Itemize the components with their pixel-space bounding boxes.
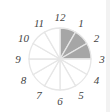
- hour-label: 10: [18, 32, 30, 44]
- hour-label: 1: [78, 17, 84, 29]
- clock-fraction-diagram: 121234567891011: [0, 0, 110, 112]
- hour-label: 8: [21, 74, 27, 86]
- hour-label: 12: [55, 11, 67, 23]
- hour-label: 9: [15, 53, 21, 65]
- hour-label: 5: [78, 89, 84, 101]
- hour-label: 2: [94, 32, 100, 44]
- right-edge-divider: [106, 0, 110, 112]
- hour-label: 11: [34, 17, 44, 29]
- hour-label: 6: [57, 95, 63, 107]
- clock-circle: 121234567891011: [0, 0, 110, 112]
- hour-label: 3: [98, 53, 105, 65]
- hour-label: 7: [36, 89, 42, 101]
- hour-label: 4: [94, 74, 100, 86]
